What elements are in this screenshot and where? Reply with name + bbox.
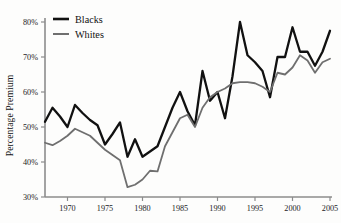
line-chart: 30%40%50%60%70%80% 197019751980198519901… xyxy=(0,0,341,223)
legend-label-whites: Whites xyxy=(75,29,104,40)
x-tick-label: 2000 xyxy=(284,204,300,213)
y-tick-label: 60% xyxy=(23,88,38,97)
data-series xyxy=(45,22,330,187)
x-tick-label: 1980 xyxy=(134,204,150,213)
chart-container: 30%40%50%60%70%80% 197019751980198519901… xyxy=(0,0,341,223)
y-tick-label: 40% xyxy=(23,158,38,167)
y-tick-label: 80% xyxy=(23,18,38,27)
y-tick-label: 70% xyxy=(23,53,38,62)
x-tick-label: 1990 xyxy=(209,204,225,213)
x-tick-label: 1970 xyxy=(59,204,75,213)
x-tick-label: 1985 xyxy=(172,204,188,213)
chart-legend: BlacksWhites xyxy=(53,14,104,40)
x-tick-label: 2005 xyxy=(322,204,338,213)
x-axis-ticks: 19701975198019851990199520002005 xyxy=(59,197,338,213)
x-tick-label: 1975 xyxy=(97,204,113,213)
y-tick-label: 30% xyxy=(23,193,38,202)
y-axis-label: Percentage Premium xyxy=(4,74,15,156)
series-line-blacks xyxy=(45,22,330,157)
y-axis-title: Percentage Premium xyxy=(4,74,15,156)
x-tick-label: 1995 xyxy=(247,204,263,213)
legend-label-blacks: Blacks xyxy=(75,14,103,25)
y-axis-ticks: 30%40%50%60%70%80% xyxy=(23,18,45,202)
y-tick-label: 50% xyxy=(23,123,38,132)
series-line-whites xyxy=(45,55,330,187)
